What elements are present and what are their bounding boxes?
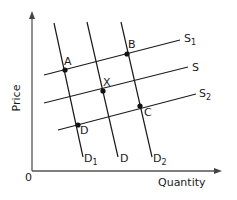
point-a-label: A [64,55,72,68]
point-b-label: B [128,38,136,51]
axes [29,11,222,174]
point-a [62,67,67,72]
demand-curve-d2 [121,22,152,157]
supply-demand-diagram: A B X D C S1 S S2 D1 D D2 0 Quantity Pri… [0,0,237,200]
origin-label: 0 [25,171,32,184]
demand-curve-d1 [54,23,83,157]
supply-curves [44,40,196,130]
y-axis-arrow-icon [29,11,35,19]
supply-label-s2: S2 [199,87,211,102]
point-x-label: X [103,76,111,89]
point-x [100,88,105,93]
x-axis-arrow-icon [214,168,222,174]
supply-label-s: S [192,61,199,74]
y-axis-label: Price [10,84,23,111]
demand-label-d2: D2 [153,152,167,167]
point-c-label: C [144,106,152,119]
supply-label-s1: S1 [184,32,196,47]
point-b [124,51,129,56]
demand-label-d: D [120,152,128,165]
point-d-label: D [80,124,88,137]
x-axis-label: Quantity [158,176,206,189]
demand-label-d1: D1 [84,152,98,167]
point-c [137,103,142,108]
